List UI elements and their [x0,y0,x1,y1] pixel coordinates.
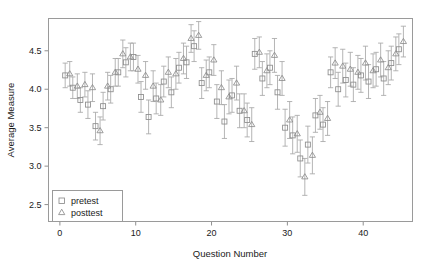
scatter-plot-with-error-bars: 2.53.03.54.04.5 010203040 Question Numbe… [0,0,436,264]
x-tick-label: 30 [282,228,292,238]
y-axis-title: Average Measure [5,83,16,158]
x-tick-label: 20 [207,228,217,238]
legend-label-posttest: posttest [71,208,103,218]
y-tick-label: 4.0 [29,84,42,94]
chart-container: 2.53.03.54.04.5 010203040 Question Numbe… [0,0,436,264]
x-axis-title: Question Number [193,248,267,259]
y-tick-label: 4.5 [29,46,42,56]
chart-background [0,0,436,264]
y-tick-label: 2.5 [29,200,42,210]
x-tick-label: 40 [358,228,368,238]
x-tick-label: 0 [57,228,62,238]
x-tick-label: 10 [131,228,141,238]
legend-label-pretest: pretest [71,196,99,206]
legend: pretest posttest [53,191,123,222]
y-tick-label: 3.5 [29,123,42,133]
y-tick-label: 3.0 [29,161,42,171]
